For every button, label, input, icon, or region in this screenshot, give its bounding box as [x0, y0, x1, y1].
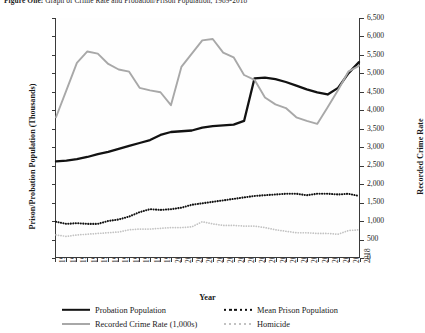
- x-axis-tick: [276, 258, 277, 262]
- x-axis-tick: [286, 258, 287, 262]
- y-axis-right-tick-label: 6,500: [367, 14, 413, 22]
- dotted-line-swatch-icon: [224, 320, 252, 329]
- series-line: [56, 39, 359, 124]
- x-axis-tick: [87, 258, 88, 262]
- y-axis-right-tick: [360, 73, 364, 74]
- legend-item-probation-population: Probation Population: [62, 306, 224, 315]
- line-swatch-icon: [62, 320, 90, 329]
- x-axis-tick: [318, 258, 319, 262]
- x-axis-tick: [160, 258, 161, 262]
- series-line: [56, 194, 359, 224]
- x-axis-tick: [213, 258, 214, 262]
- y-axis-right-tick-label: 3,500: [367, 125, 413, 133]
- y-axis-right-tick: [360, 110, 364, 111]
- x-axis-tick: [66, 258, 67, 262]
- y-axis-right-tick: [360, 18, 364, 19]
- y-axis-right-tick-label: 0: [367, 254, 413, 262]
- x-axis-tick: [192, 258, 193, 262]
- legend-item-homicide: Homicide: [224, 320, 414, 329]
- x-axis-tick: [328, 258, 329, 262]
- plot-area: [55, 18, 360, 258]
- x-axis-tick: [244, 258, 245, 262]
- figure-title: Figure One: Graph of Crime Rate and Prob…: [4, 0, 413, 5]
- chart-legend: Probation Population Mean Prison Populat…: [62, 303, 412, 331]
- y-axis-left-title: Prison/Probation Population (Thousands): [28, 57, 37, 257]
- y-axis-right-tick-label: 1,500: [367, 198, 413, 206]
- y-axis-right-tick: [360, 36, 364, 37]
- y-axis-right-title: Recorded Crime Rate: [416, 57, 425, 257]
- x-axis-tick: [223, 258, 224, 262]
- x-axis-tick: [55, 258, 56, 262]
- chart-svg: [56, 18, 359, 257]
- y-axis-right-tick: [360, 184, 364, 185]
- x-axis-title: Year: [55, 293, 360, 302]
- y-axis-right-tick: [360, 55, 364, 56]
- x-axis-tick: [108, 258, 109, 262]
- line-swatch-icon: [62, 306, 90, 315]
- y-axis-right-tick-label: 5,000: [367, 69, 413, 77]
- y-axis-right-tick-label: 2,000: [367, 180, 413, 188]
- series-line: [56, 222, 359, 237]
- y-axis-right-tick-label: 2,500: [367, 161, 413, 169]
- y-axis-right-tick: [360, 221, 364, 222]
- y-axis-right-tick: [360, 240, 364, 241]
- x-axis-tick: [139, 258, 140, 262]
- series-line: [56, 62, 359, 161]
- y-axis-right-tick-label: 4,000: [367, 106, 413, 114]
- legend-label: Recorded Crime Rate (1,000s): [95, 320, 197, 329]
- x-axis-tick: [202, 258, 203, 262]
- legend-item-recorded-crime-rate: Recorded Crime Rate (1,000s): [62, 320, 224, 329]
- x-axis-tick: [129, 258, 130, 262]
- legend-label: Probation Population: [95, 306, 166, 315]
- figure-caption: Graph of Crime Rate and Probation/Prison…: [45, 0, 247, 5]
- legend-label: Homicide: [257, 320, 290, 329]
- dotted-line-swatch-icon: [224, 306, 252, 315]
- y-axis-right-tick: [360, 92, 364, 93]
- x-axis-tick: [349, 258, 350, 262]
- y-axis-right-tick: [360, 203, 364, 204]
- x-axis-tick: [234, 258, 235, 262]
- y-axis-right-tick: [360, 147, 364, 148]
- x-axis-tick: [181, 258, 182, 262]
- y-axis-right-tick: [360, 129, 364, 130]
- y-axis-right-tick-label: 5,500: [367, 51, 413, 59]
- legend-item-mean-prison-population: Mean Prison Population: [224, 306, 414, 315]
- x-axis-tick: [118, 258, 119, 262]
- x-axis-tick: [265, 258, 266, 262]
- x-axis-tick: [76, 258, 77, 262]
- x-axis-tick: [255, 258, 256, 262]
- x-axis-tick: [339, 258, 340, 262]
- x-axis-tick: [297, 258, 298, 262]
- figure-label: Figure One:: [4, 0, 43, 5]
- y-axis-right-tick: [360, 166, 364, 167]
- x-axis-tick-label: 2018: [363, 248, 372, 263]
- x-axis-tick: [150, 258, 151, 262]
- x-axis-tick: [307, 258, 308, 262]
- y-axis-right-tick-label: 1,000: [367, 217, 413, 225]
- x-axis-tick: [171, 258, 172, 262]
- x-axis-tick: [97, 258, 98, 262]
- y-axis-right-tick-label: 6,000: [367, 32, 413, 40]
- x-axis-tick: [360, 258, 361, 262]
- y-axis-right-tick-label: 500: [367, 235, 413, 243]
- y-axis-right-tick-label: 4,500: [367, 88, 413, 96]
- y-axis-right-tick-label: 3,000: [367, 143, 413, 151]
- legend-label: Mean Prison Population: [257, 306, 338, 315]
